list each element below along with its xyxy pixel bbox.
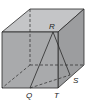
label-s: S (73, 76, 79, 85)
label-r: R (49, 22, 55, 31)
label-q: Q (26, 91, 32, 100)
cube-diagram: R Q T S (0, 0, 92, 101)
label-t: T (54, 91, 60, 100)
